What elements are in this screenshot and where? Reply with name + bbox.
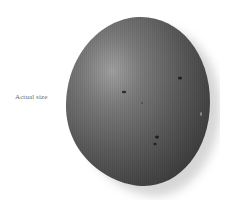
egg-image [60,10,220,200]
actual-size-caption: Actual size [15,93,47,101]
